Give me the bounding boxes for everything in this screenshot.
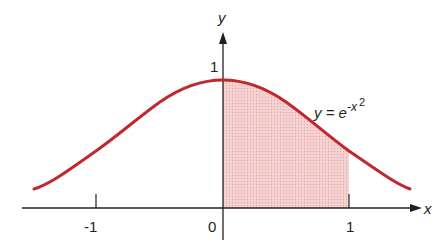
function-exponent-power: 2 — [359, 96, 365, 108]
gaussian-curve — [34, 80, 410, 189]
x-tick-label-zero: 0 — [208, 218, 216, 235]
y-tick-label-one: 1 — [210, 58, 218, 75]
shaded-area — [223, 80, 349, 208]
function-exponent: -x — [347, 100, 358, 114]
gaussian-diagram: y x 1 -1 0 1 y = e-x2 — [0, 0, 447, 252]
y-axis-label: y — [217, 9, 227, 26]
function-lhs: y = e — [313, 104, 347, 121]
x-tick-label-minus-one: -1 — [84, 218, 97, 235]
x-axis-arrow-icon — [410, 204, 422, 212]
x-tick-label-one: 1 — [346, 218, 354, 235]
function-label: y = e-x2 — [313, 96, 365, 121]
y-axis-arrow-icon — [219, 32, 227, 44]
x-axis-label: x — [423, 200, 432, 217]
